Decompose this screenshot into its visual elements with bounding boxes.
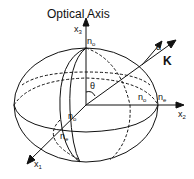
theta-label: θ [90, 82, 95, 91]
no-front-label: no [68, 112, 76, 122]
x1-axis [30, 105, 86, 160]
x1-label: x1 [34, 160, 42, 170]
no-top-label: no [87, 37, 95, 47]
theta-arc [86, 92, 95, 97]
no-right-label: no [138, 93, 146, 103]
alpha-label: α [156, 43, 161, 52]
x2-label: x2 [178, 110, 186, 120]
ne-right-label: ne [158, 93, 166, 103]
k-arrow-icon [167, 40, 176, 48]
k-label: K [163, 55, 172, 67]
optical-axis-title: Optical Axis [47, 8, 110, 20]
x2-arrow-icon [176, 102, 184, 108]
meridian-front [60, 48, 86, 162]
equator-front [14, 105, 158, 132]
index-ellipsoid-diagram [0, 0, 194, 179]
x3-label: x3 [74, 25, 82, 35]
ne-front-label: ne [60, 132, 68, 142]
